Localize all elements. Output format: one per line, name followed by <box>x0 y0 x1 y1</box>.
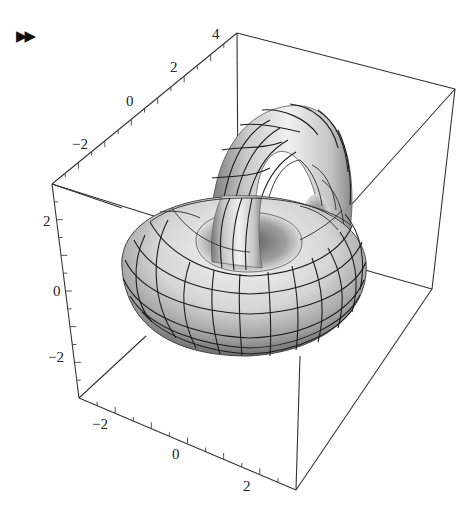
tick-label-top-0: 0 <box>126 94 134 109</box>
tick-label-top-neg2: −2 <box>72 137 88 152</box>
tick-label-top-4: 4 <box>212 27 220 42</box>
tick-label-left-2: 2 <box>43 214 51 229</box>
tick-label-left-0: 0 <box>53 284 61 299</box>
torus-plot[interactable] <box>0 0 469 510</box>
tick-label-bottom-2: 2 <box>243 479 251 494</box>
tick-label-bottom-0: 0 <box>172 447 180 462</box>
tick-label-left-neg2: −2 <box>48 350 64 365</box>
horizontal-torus <box>122 196 366 356</box>
tick-label-top-2: 2 <box>170 60 178 75</box>
tick-label-bottom-neg2: −2 <box>92 417 108 432</box>
